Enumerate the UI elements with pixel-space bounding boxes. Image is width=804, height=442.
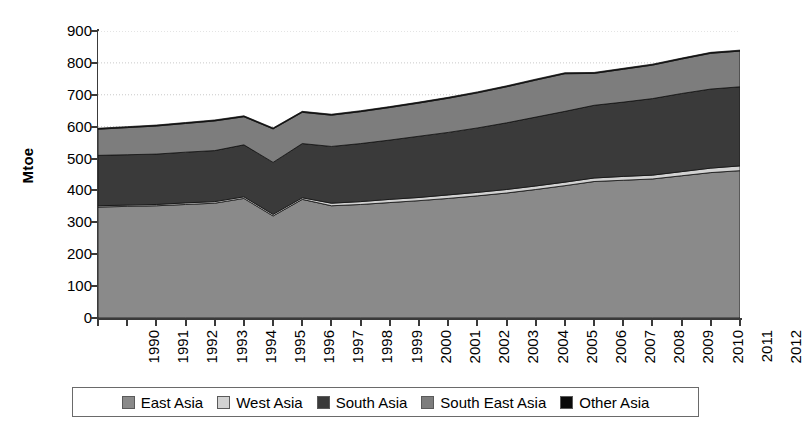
legend-swatch-icon (560, 396, 573, 409)
x-tick-label: 2005 (584, 330, 600, 386)
legend-swatch-icon (217, 396, 230, 409)
x-tick-label: 1995 (292, 330, 308, 386)
x-tick-label: 2004 (555, 330, 571, 386)
legend-label: South East Asia (440, 395, 546, 410)
legend-label: East Asia (141, 395, 204, 410)
x-tick-label: 1999 (409, 330, 425, 386)
x-tick-label: 1996 (321, 330, 337, 386)
legend-item[interactable]: South East Asia (421, 395, 546, 410)
x-tick-label: 2010 (730, 330, 746, 386)
legend-label: West Asia (236, 395, 302, 410)
x-tick-label: 2001 (467, 330, 483, 386)
x-tick-label: 1993 (234, 330, 250, 386)
x-tick-label: 2000 (438, 330, 454, 386)
x-tick-label: 2003 (525, 330, 541, 386)
x-tick-label: 1997 (350, 330, 366, 386)
legend-item[interactable]: East Asia (122, 395, 204, 410)
x-tick-label: 2011 (759, 330, 775, 386)
legend-label: South Asia (336, 395, 408, 410)
legend-item[interactable]: West Asia (217, 395, 302, 410)
x-tick-label: 2007 (642, 330, 658, 386)
legend-swatch-icon (317, 396, 330, 409)
x-tick-label: 2009 (700, 330, 716, 386)
x-tick-label: 2006 (613, 330, 629, 386)
legend-label: Other Asia (579, 395, 649, 410)
legend-swatch-icon (122, 396, 135, 409)
x-tick-label: 1990 (146, 330, 162, 386)
chart-legend: East AsiaWest AsiaSouth AsiaSouth East A… (72, 387, 699, 417)
x-tick-label: 2012 (788, 330, 804, 386)
x-tick-label: 2008 (671, 330, 687, 386)
x-tick-label: 1998 (379, 330, 395, 386)
legend-swatch-icon (421, 396, 434, 409)
x-tick-label: 1994 (263, 330, 279, 386)
legend-item[interactable]: South Asia (317, 395, 408, 410)
x-tick-label: 2002 (496, 330, 512, 386)
x-tick-label: 1991 (175, 330, 191, 386)
x-tick-label: 1992 (204, 330, 220, 386)
legend-item[interactable]: Other Asia (560, 395, 649, 410)
